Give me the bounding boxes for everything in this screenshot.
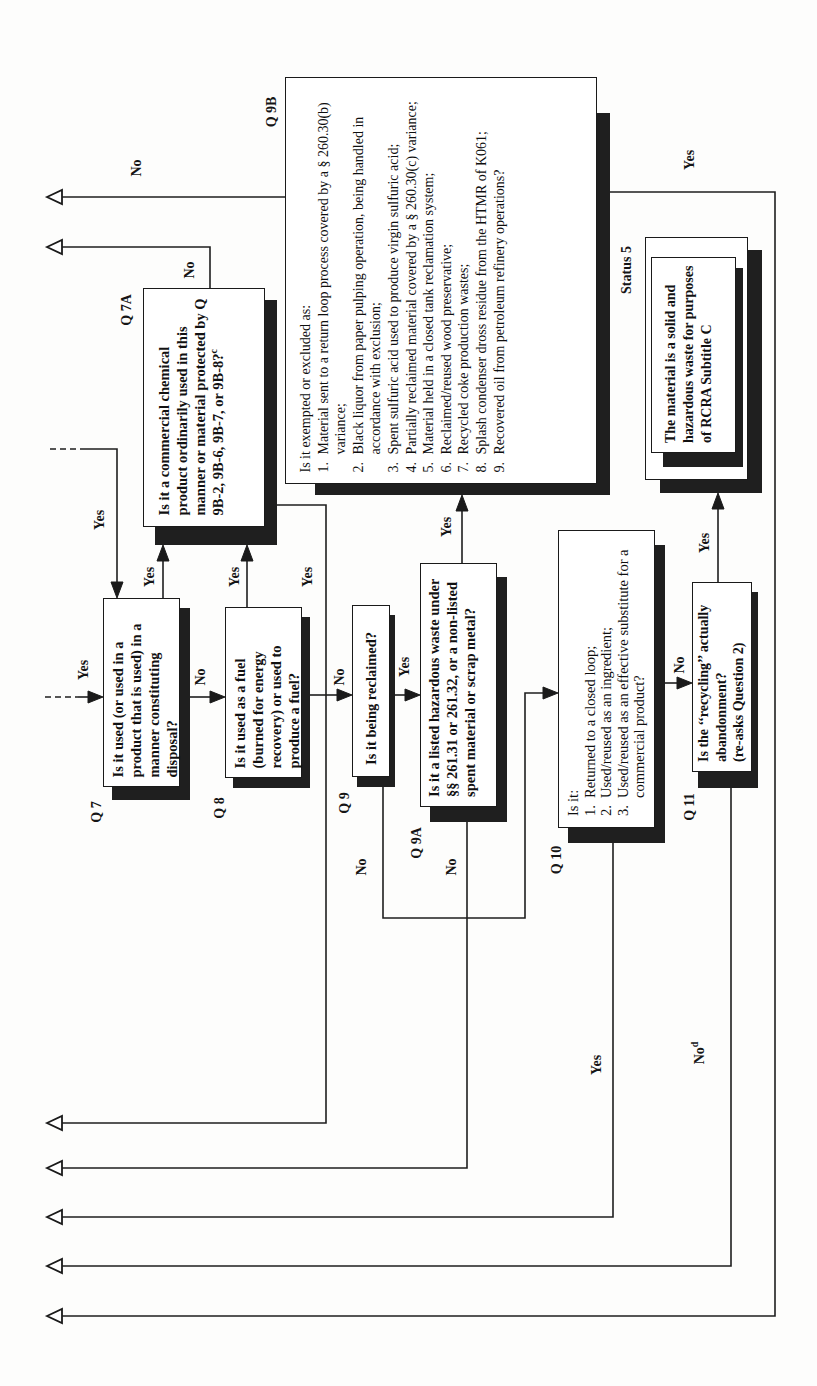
q10-intro: Is it: [564, 538, 581, 816]
q11-note: (re-asks Question 2) [730, 588, 748, 762]
q11-question: Is the ‘‘recycling’’ actually abandonmen… [695, 588, 730, 762]
q9-question: Is it being reclaimed? [352, 605, 390, 777]
q9b-item: 4.Partially reclaimed material covered b… [403, 89, 421, 472]
q7a-question: Is it a commercial chemical product ordi… [156, 298, 226, 515]
q9b-item: 3.Spent sulfuric acid used to produce vi… [385, 89, 403, 472]
q8-question: Is it used as a fuel (burned for energy … [225, 607, 302, 778]
q9a-label: Q 9A [409, 827, 425, 859]
q7a-label: Q 7A [119, 294, 135, 326]
q9b-item: 5.Material held in a closed tank reclama… [420, 89, 438, 472]
edge-label-q9b-yes: Yes [682, 150, 698, 170]
edge-label-q11-no: Nod [692, 1042, 708, 1065]
q9b-item: 8.Splash condenser dross residue from th… [473, 89, 491, 472]
edge-label-q9b-no: No [129, 159, 145, 176]
edge-label-q7-no: No [193, 668, 209, 685]
q9b-item: 7.Recycled coke production wastes; [455, 89, 473, 472]
q11-no-footnote-marker: d [689, 1042, 700, 1048]
edge-label-entry-top-yes: Yes [92, 510, 108, 530]
q9b-item: 6.Reclaimed/reused wood preservative; [438, 89, 456, 472]
status5-box: The material is a solid and hazardous wa… [651, 257, 736, 453]
q9a-question: Is it a listed hazardous waste under §§ … [420, 563, 497, 807]
q9b-box: Is it exempted or excluded as: 1.Materia… [285, 77, 597, 484]
q9b-item: 2.Black liquor from paper pulping operat… [350, 89, 385, 472]
edge-label-q8-no: No [332, 668, 348, 685]
q9b-intro: Is it exempted or excluded as: [297, 89, 315, 472]
q10-box: Is it: 1.Returned to a closed loop; 2.Us… [558, 530, 655, 828]
edge-label-q8-yes: Yes [227, 567, 243, 587]
q11-content: Is the ‘‘recycling’’ actually abandonmen… [692, 582, 752, 772]
q10-item: 1.Returned to a closed loop; [581, 538, 598, 816]
edge-label-q7a-no: No [182, 261, 198, 278]
edge-label-q7-yes: Yes [142, 567, 158, 587]
q9-box: Is it being reclaimed? [352, 605, 390, 777]
q10-item: 2.Used/reused as an ingredient; [597, 538, 614, 816]
q7-question: Is it used (or used in a product that is… [103, 598, 180, 787]
q8-label: Q 8 [212, 797, 228, 818]
edge-label-q10-no: No [672, 656, 688, 673]
status5-text: The material is a solid and hazardous wa… [651, 257, 736, 453]
q9b-content: Is it exempted or excluded as: 1.Materia… [285, 77, 597, 484]
edge-label-q9-no: No [354, 858, 370, 875]
q9b-item: 1.Material sent to a return loop process… [315, 89, 350, 472]
q8-box: Is it used as a fuel (burned for energy … [225, 607, 302, 778]
q9b-item: 9.Recovered oil from petroleum refinery … [491, 89, 509, 472]
edge-label-q9a-no: No [444, 858, 460, 875]
q9a-box: Is it a listed hazardous waste under §§ … [420, 563, 497, 807]
q10-item: 3.Used/reused as an effective substitute… [614, 538, 647, 816]
q7-box: Is it used (or used in a product that is… [103, 598, 180, 787]
q9-label: Q 9 [337, 792, 353, 813]
q9b-label: Q 9B [264, 97, 280, 128]
edge-label-q9-yes: Yes [397, 657, 413, 677]
status5-label: Status 5 [619, 246, 635, 294]
edge-label-q9a-yes: Yes [439, 517, 455, 537]
q11-box: Is the ‘‘recycling’’ actually abandonmen… [692, 582, 752, 772]
q7a-footnote-marker: c [208, 348, 219, 352]
edge-label-entry-left-yes: Yes [76, 660, 92, 680]
q11-label: Q 11 [682, 793, 698, 821]
q7-label: Q 7 [89, 801, 105, 822]
edge-label-q11-yes: Yes [697, 533, 713, 553]
q7a-box: Is it a commercial chemical product ordi… [143, 288, 265, 527]
q10-label: Q 10 [549, 846, 565, 874]
edge-label-q10-yes: Yes [589, 1055, 605, 1075]
q10-content: Is it: 1.Returned to a closed loop; 2.Us… [558, 530, 655, 828]
edge-label-q7a-yes: Yes [300, 567, 316, 587]
q7a-content: Is it a commercial chemical product ordi… [143, 288, 265, 527]
